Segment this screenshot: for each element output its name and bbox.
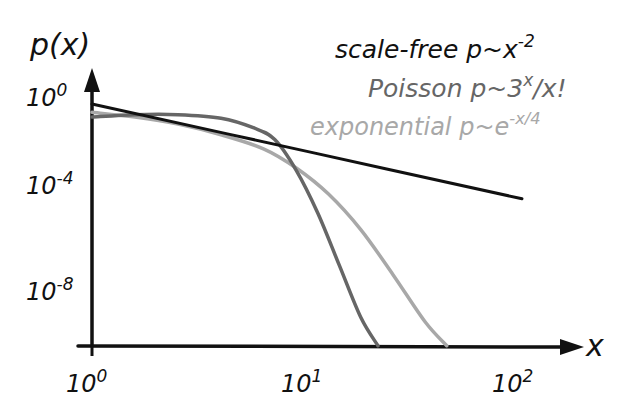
x-tick-label: 100 [66,366,107,398]
chart: p(x) x 100101102 10010-410-8 scale-free … [0,0,628,410]
y-tick-exponent: 0 [57,80,68,100]
x-tick-exponent: 1 [312,366,323,386]
x-tick-label: 101 [281,366,322,398]
legend-formula: p~e [458,113,509,141]
y-tick-labels: 10010-410-8 [26,80,74,306]
x-tick-label: 102 [492,366,533,398]
x-tick-labels: 100101102 [66,366,533,398]
y-tick-label: 100 [26,80,67,112]
legend-formula: p~3 [469,74,523,103]
x-axis [78,346,566,347]
legend-entry-scale-free: scale-free p~x-2 [335,31,535,64]
legend-series-name: scale-free [335,35,466,64]
x-axis-label: x [585,328,604,363]
legend-series-name: exponential [310,113,459,141]
y-tick-exponent: -8 [57,274,74,294]
x-tick-exponent: 0 [97,366,108,386]
series-line-poisson [92,114,378,345]
x-tick-exponent: 2 [523,366,534,386]
x-axis-arrow-icon [560,339,584,355]
legend-formula-exponent: -2 [518,31,535,51]
legend-entry-poisson: Poisson p~3x/x! [368,70,567,103]
legend-formula-tail: /x! [531,74,566,103]
y-tick-label: 10-8 [26,274,74,306]
y-tick-label: 10-4 [26,168,74,200]
y-axis-arrow-icon [84,68,100,92]
legend-formula: p~x [465,35,518,64]
legend-series-name: Poisson [368,74,470,103]
y-tick-exponent: -4 [57,168,74,188]
y-axis-label: p(x) [29,27,90,62]
legend: scale-free p~x-2Poisson p~3x/x!exponenti… [310,31,567,141]
legend-formula-exponent: -x/4 [509,109,540,128]
series-line-exponential [92,112,447,345]
legend-entry-exponential: exponential p~e-x/4 [310,109,541,141]
